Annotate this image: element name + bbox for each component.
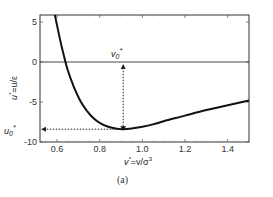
x-tick-label: 1.2 [179, 144, 192, 154]
y-tick-label: -10 [24, 137, 37, 147]
figure-caption: (a) [117, 174, 128, 185]
x-tick-label: 0.8 [93, 144, 106, 154]
tick-labels: 0.60.81.01.21.450-5-10 [24, 17, 234, 154]
u0-annotation: u0* [4, 124, 16, 137]
y-tick-label: 0 [32, 57, 37, 67]
x-axis-label: v*=v/σ3 [124, 156, 153, 167]
y-axis-label: u*=u/ε [8, 76, 19, 100]
x-tick-label: 0.6 [51, 144, 64, 154]
potential-curve [55, 15, 249, 129]
u0-arrowhead-icon [41, 127, 46, 132]
v0-annotation: v0* [111, 47, 122, 60]
x-tick-label: 1.4 [221, 144, 234, 154]
chart: 0.60.81.01.21.450-5-10 v0* u0* v*=v/σ3 u… [0, 0, 273, 197]
x-tick-label: 1.0 [136, 144, 149, 154]
v0-arrowhead-icon [121, 64, 126, 69]
y-tick-label: 5 [32, 17, 37, 27]
y-tick-label: -5 [29, 97, 37, 107]
